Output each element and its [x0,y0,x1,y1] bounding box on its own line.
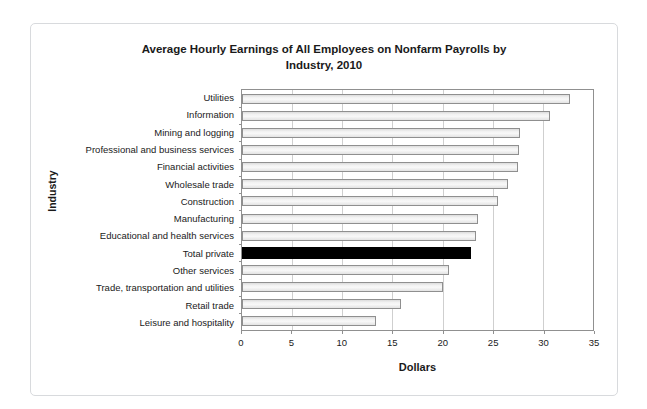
bar [242,196,498,206]
bar-row [242,141,593,158]
bar-row [242,210,593,227]
category-label: Educational and health services [31,227,238,244]
category-label: Financial activities [31,158,238,175]
bar-total-private [242,247,471,259]
bar [242,316,376,326]
x-tick-label: 5 [289,337,294,348]
bar [242,179,508,189]
bar-row [242,279,593,296]
x-tick-label: 20 [437,337,448,348]
bar-row [242,227,593,244]
plot-area [241,89,594,331]
x-axis-tick-marks [241,331,594,334]
category-label: Retail trade [31,296,238,313]
chart-title-line1: Average Hourly Earnings of All Employees… [142,43,507,55]
category-label: Mining and logging [31,124,238,141]
bar-row [242,124,593,141]
x-tick-mark [291,331,292,334]
category-label-column: UtilitiesInformationMining and loggingPr… [31,89,238,331]
bar [242,111,550,121]
bar [242,162,518,172]
x-tick-mark [493,331,494,334]
bars-container [242,90,593,330]
x-tick-label: 10 [337,337,348,348]
x-axis-tick-labels: 05101520253035 [241,337,594,348]
bar-row [242,244,593,261]
category-label: Utilities [31,89,238,106]
bar [242,128,520,138]
bar-row [242,193,593,210]
x-tick-mark [392,331,393,334]
x-axis-label: Dollars [241,361,594,373]
x-tick-label: 25 [488,337,499,348]
bar-row [242,107,593,124]
bar-row [242,296,593,313]
bar [242,299,401,309]
bar [242,265,449,275]
category-label: Construction [31,193,238,210]
category-label: Professional and business services [31,141,238,158]
x-tick-label: 30 [538,337,549,348]
bar-row [242,261,593,278]
category-label: Other services [31,262,238,279]
bar [242,282,443,292]
bar [242,231,476,241]
bar-row [242,90,593,107]
chart-title: Average Hourly Earnings of All Employees… [31,41,617,73]
chart-title-line2: Industry, 2010 [286,59,363,71]
bar [242,94,570,104]
bar [242,214,478,224]
x-tick-label: 0 [238,337,243,348]
x-tick-mark [443,331,444,334]
bar-row [242,159,593,176]
bar [242,145,519,155]
category-label: Trade, transportation and utilities [31,279,238,296]
category-label: Manufacturing [31,210,238,227]
x-tick-mark [241,331,242,334]
x-tick-label: 15 [387,337,398,348]
category-label: Leisure and hospitality [31,314,238,331]
bar-row [242,313,593,330]
x-tick-mark [342,331,343,334]
chart-figure: Average Hourly Earnings of All Employees… [30,23,618,396]
category-label: Total private [31,245,238,262]
x-tick-label: 35 [589,337,600,348]
x-tick-mark [544,331,545,334]
category-label: Information [31,106,238,123]
x-tick-mark [594,331,595,334]
bar-row [242,176,593,193]
category-label: Wholesale trade [31,175,238,192]
